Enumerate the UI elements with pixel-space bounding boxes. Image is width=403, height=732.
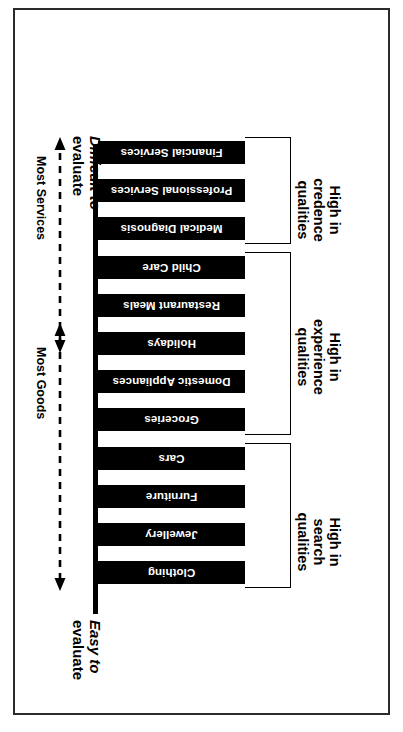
most-goods-arrow-icon — [47, 322, 73, 592]
bar-groceries: Groceries — [98, 408, 245, 431]
bar-cars: Cars — [98, 447, 245, 470]
bracket-experience-qualities — [245, 252, 291, 435]
range-label-most-goods: Most Goods — [34, 347, 48, 419]
bracket-credence-qualities — [245, 137, 291, 244]
bracket-search-qualities — [245, 443, 291, 588]
bar-furniture: Furniture — [98, 485, 245, 508]
group-label-credence-line3: qualities — [294, 140, 310, 280]
group-label-search-line3: qualities — [294, 467, 310, 617]
bar-jewellery: Jewellery — [98, 523, 245, 546]
axis-endpoint-easy-line2: evaluate — [69, 620, 86, 680]
axis-endpoint-easy-line1: Easy to — [86, 620, 103, 680]
group-label-search-line2: search — [311, 467, 327, 617]
group-label-search-qualities: High in search qualities — [294, 467, 343, 617]
bar-child-care: Child Care — [98, 256, 245, 279]
bar-restaurant-meals: Restaurant Meals — [98, 294, 245, 317]
axis-endpoint-easy: Easy to evaluate — [69, 620, 103, 680]
group-label-credence-qualities: High in credence qualities — [294, 140, 343, 280]
range-label-most-services: Most Services — [34, 156, 48, 240]
group-label-experience-line1: High in — [327, 277, 343, 437]
bar-financial-services: Financial Services — [98, 141, 245, 164]
range-most-services: Most Services — [47, 132, 73, 354]
group-label-credence-line2: credence — [311, 140, 327, 280]
range-most-goods: Most Goods — [47, 318, 73, 592]
diagram-stage: Easy to evaluate Difficult to evaluate C… — [0, 0, 403, 732]
bar-clothing: Clothing — [98, 561, 245, 584]
bar-domestic-appliances: Domestic Appliances — [98, 370, 245, 393]
group-label-credence-line1: High in — [327, 140, 343, 280]
diagram-rotated-container: Easy to evaluate Difficult to evaluate C… — [0, 0, 403, 732]
bar-professional-services: Professional Services — [98, 179, 245, 202]
most-services-arrow-icon — [47, 136, 73, 354]
group-label-search-line1: High in — [327, 467, 343, 617]
bar-medical-diagnosis: Medical Diagnosis — [98, 217, 245, 240]
group-label-experience-line3: qualities — [294, 277, 310, 437]
group-label-experience-qualities: High in experience qualities — [294, 277, 343, 437]
bar-holidays: Holidays — [98, 332, 245, 355]
group-label-experience-line2: experience — [311, 277, 327, 437]
